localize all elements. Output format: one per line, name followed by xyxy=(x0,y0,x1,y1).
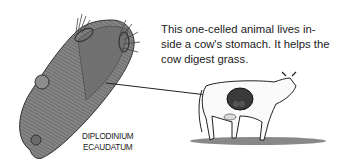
organism-label-line-1: DIPLODINIUM xyxy=(82,131,133,142)
caption-line-2: side a cow's stomach. It helps the xyxy=(161,37,333,52)
caption-line-1: This one-celled animal lives in- xyxy=(161,22,333,37)
cow-illustration xyxy=(190,72,326,145)
cow-stomach xyxy=(227,88,253,110)
organism-label-line-2: ECAUDATUM xyxy=(82,142,133,153)
caption-text: This one-celled animal lives in- side a … xyxy=(161,22,333,67)
diagram: This one-celled animal lives in- side a … xyxy=(0,0,347,168)
organism-label: DIPLODINIUM ECAUDATUM xyxy=(82,131,133,153)
caption-line-3: cow digest grass. xyxy=(161,52,333,67)
